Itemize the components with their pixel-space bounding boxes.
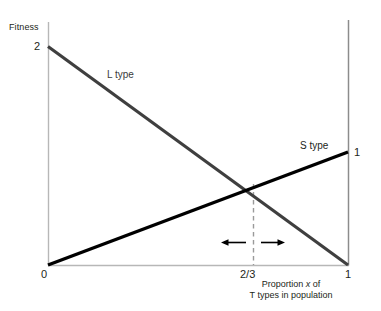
x-axis-caption-line-1: Proportion x of xyxy=(250,279,333,290)
stability-arrow-right xyxy=(261,239,285,246)
series-label-l-type: L type xyxy=(107,69,134,80)
fitness-chart-figure: Fitness 2 0 2/3 1 1 L type S type Propor… xyxy=(0,0,381,311)
series-label-s-type: S type xyxy=(300,140,328,151)
x-axis-caption-line-2: T types in population xyxy=(250,290,333,301)
chart-plot-area xyxy=(0,0,381,311)
stability-arrow-left xyxy=(221,239,246,246)
series-line-l-type xyxy=(48,47,348,266)
y-tick-label-2: 2 xyxy=(34,40,40,52)
x-tick-label-1: 1 xyxy=(345,268,351,280)
x-axis-caption-pre: Proportion xyxy=(262,279,306,289)
y-axis-title: Fitness xyxy=(9,22,39,32)
x-tick-label-0: 0 xyxy=(41,268,47,280)
right-axis-tick-label-1: 1 xyxy=(354,146,360,158)
x-axis-caption: Proportion x of T types in population xyxy=(250,279,333,302)
series-line-s-type xyxy=(48,152,348,265)
x-axis-caption-post: of xyxy=(310,279,320,289)
